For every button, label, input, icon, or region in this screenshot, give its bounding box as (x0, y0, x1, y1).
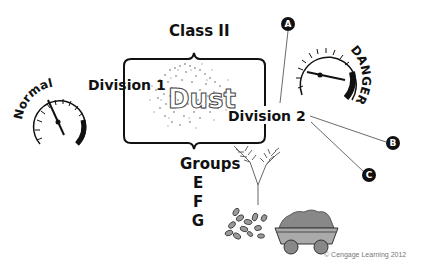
groups-title: Groups (180, 155, 240, 173)
diagram-canvas: Normal DANGER (0, 0, 425, 272)
normal-gauge-icon (34, 99, 86, 144)
group-g: G (188, 212, 208, 230)
division-2-label: Division 2 (228, 108, 306, 124)
callout-line-b (310, 116, 386, 142)
grain-stalk-icon (234, 146, 280, 205)
callout-line-c (311, 122, 364, 172)
copyright-text: © Cengage Learning 2012 (324, 251, 406, 258)
seeds-pile-icon (224, 207, 268, 240)
dust-word: Dust (168, 84, 236, 114)
ore-cart-icon (275, 210, 338, 254)
callout-a: A (281, 17, 295, 31)
callout-line-a (280, 31, 288, 103)
danger-gauge-icon (296, 48, 356, 100)
callout-c: C (362, 168, 376, 182)
callout-b: B (386, 136, 400, 150)
group-f: F (188, 193, 208, 211)
normal-gauge-label: Normal (11, 76, 54, 121)
group-e: E (188, 174, 208, 192)
class-title: Class II (169, 22, 230, 40)
division-1-label: Division 1 (88, 77, 166, 93)
